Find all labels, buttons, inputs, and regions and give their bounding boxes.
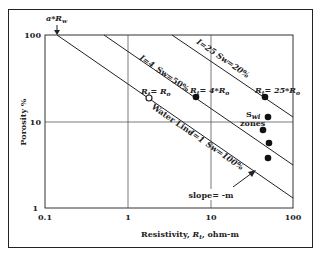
label-sw20: Sw=20%	[215, 50, 252, 80]
line-i25	[172, 35, 293, 117]
point-swi-2	[260, 127, 267, 134]
slope-arrow-head-icon	[248, 170, 256, 177]
point-rt-4ro	[193, 94, 200, 101]
y-tick-10: 10	[30, 117, 42, 127]
arrow-head-icon	[54, 30, 60, 35]
x-tick-0.1: 0.1	[38, 212, 52, 222]
label-water-group: Water Line I=1 Sw=100%	[149, 101, 246, 172]
point-swi-4	[265, 155, 272, 162]
x-tick-10: 10	[205, 212, 217, 222]
label-rt-25ro: Rt= 25*Ro	[254, 85, 300, 96]
label-sw100: Sw=100%	[204, 139, 246, 172]
label-zones: zones	[240, 118, 266, 128]
label-i25: I=25	[194, 36, 219, 57]
x-tick-1: 1	[125, 212, 131, 222]
point-swi-1	[265, 114, 272, 121]
slope-label: slope= -m	[189, 190, 234, 200]
slope-arrow-icon	[233, 173, 252, 187]
point-rt-25ro	[262, 94, 269, 101]
y-axis-title: Porosity %	[18, 98, 28, 145]
label-water-line: Water Line	[149, 101, 196, 138]
arw-label: a*Rw	[46, 13, 68, 24]
label-i25-group: I=25 Sw=20%	[194, 36, 252, 80]
label-i4: I=4	[137, 52, 157, 70]
chart-canvas: 100 10 1 0.1 1 10 100 Porosity % Resisti…	[0, 0, 321, 258]
y-tick-100: 100	[24, 30, 41, 40]
point-rt-ro	[146, 95, 152, 101]
point-swi-3	[266, 140, 273, 147]
label-rt-ro: Rt= Ro	[140, 86, 171, 97]
x-tick-100: 100	[285, 212, 302, 222]
x-axis-title: Resistivity, Rt, ohm-m	[141, 229, 239, 240]
